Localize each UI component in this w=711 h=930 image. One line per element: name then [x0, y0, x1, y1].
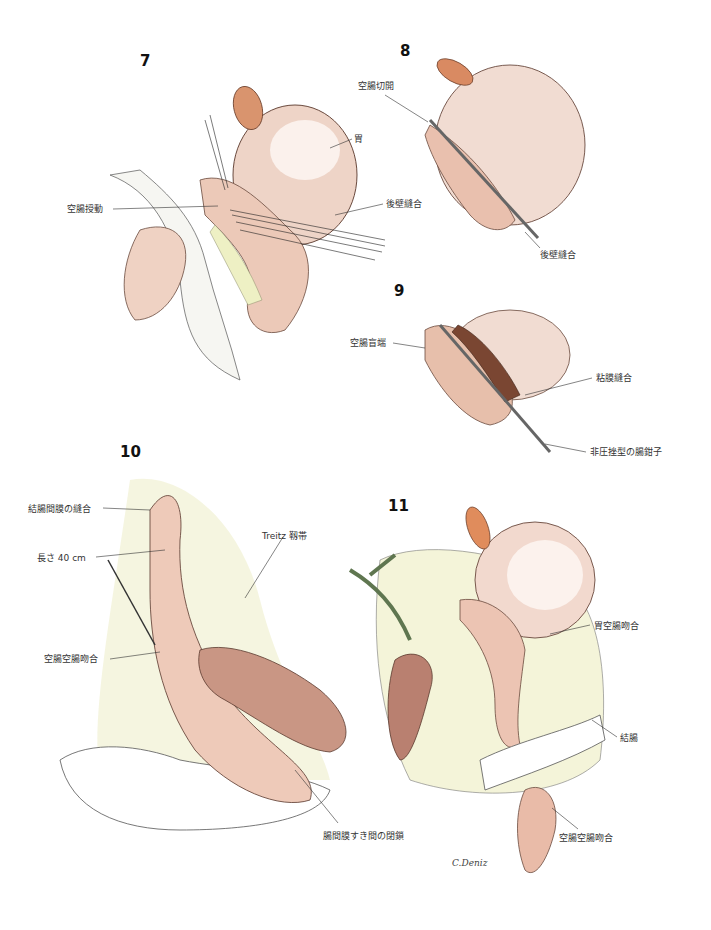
- leader-8-enterotomy: [385, 95, 428, 122]
- label-ligament-of-treitz: Treitz 靱帯: [262, 530, 307, 542]
- label-mesenteric-gap-closure: 腸間膜すき間の閉鎖: [323, 830, 404, 842]
- artist-signature: C.Deniz: [452, 858, 487, 868]
- label-noncrushing-clamp: 非圧挫型の腸鉗子: [590, 446, 662, 458]
- label-length-40cm: 長さ 40 cm: [37, 552, 86, 564]
- label-mucosal-suture: 粘膜縫合: [596, 372, 632, 384]
- figure-9-drawing: [425, 310, 570, 452]
- jejunojejunal-11: [518, 787, 556, 872]
- stomach-11-highlight: [507, 540, 583, 610]
- figure-7-drawing: [110, 83, 385, 380]
- leader-9-clamp: [545, 444, 586, 452]
- figure-8-drawing: [425, 53, 585, 238]
- figure-number-7: 7: [140, 52, 150, 70]
- label-gastrojejunostomy: 胃空腸吻合: [594, 620, 639, 632]
- figure-number-9: 9: [394, 282, 404, 300]
- label-jejunojejunostomy-10: 空腸空腸吻合: [44, 653, 98, 665]
- leader-10-treitz: [245, 537, 283, 598]
- label-mesocolon-suture: 結腸間膜の縫合: [28, 503, 91, 515]
- label-jejunal-blind-end: 空腸盲端: [350, 337, 386, 349]
- label-colon: 結腸: [620, 732, 638, 744]
- stomach-8: [435, 65, 585, 225]
- figure-number-11: 11: [388, 497, 409, 515]
- label-enterotomy: 空腸切開: [358, 80, 394, 92]
- figure-11-drawing: [350, 504, 605, 873]
- figure-number-10: 10: [120, 443, 141, 461]
- stomach-7-highlight: [270, 120, 340, 180]
- leader-9-blind-end: [393, 343, 425, 348]
- label-jejunojejunostomy-11: 空腸空腸吻合: [559, 832, 613, 844]
- leader-8-posterior-suture: [525, 232, 540, 248]
- duodenum-7: [124, 227, 186, 320]
- label-posterior-wall-suture-7: 後壁縫合: [386, 198, 422, 210]
- label-jejunum-mobilization: 空腸授動: [67, 203, 103, 215]
- label-posterior-wall-suture-8: 後壁縫合: [540, 249, 576, 261]
- figure-number-8: 8: [400, 42, 410, 60]
- label-stomach: 胃: [354, 133, 363, 145]
